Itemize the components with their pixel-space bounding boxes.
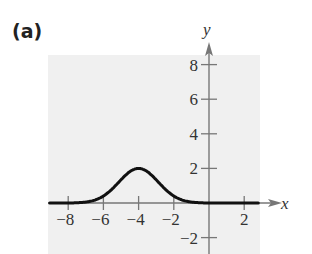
x-tick-label: 2 (240, 210, 249, 229)
x-tick-label: −8 (56, 210, 74, 229)
x-axis-label: x (280, 194, 289, 213)
y-tick-label: −2 (180, 229, 198, 248)
y-tick-label: 4 (190, 125, 199, 144)
y-tick-label: 2 (190, 159, 199, 178)
x-tick-label: −4 (127, 210, 146, 229)
x-tick-label: −6 (91, 210, 109, 229)
y-tick-label: 8 (190, 56, 199, 75)
y-axis-label: y (201, 20, 211, 39)
chart: −8−6−4−228642−2 x y (0, 0, 312, 254)
y-tick-label: 6 (190, 90, 199, 109)
plot-area (48, 55, 260, 254)
x-tick-label: −2 (162, 210, 180, 229)
